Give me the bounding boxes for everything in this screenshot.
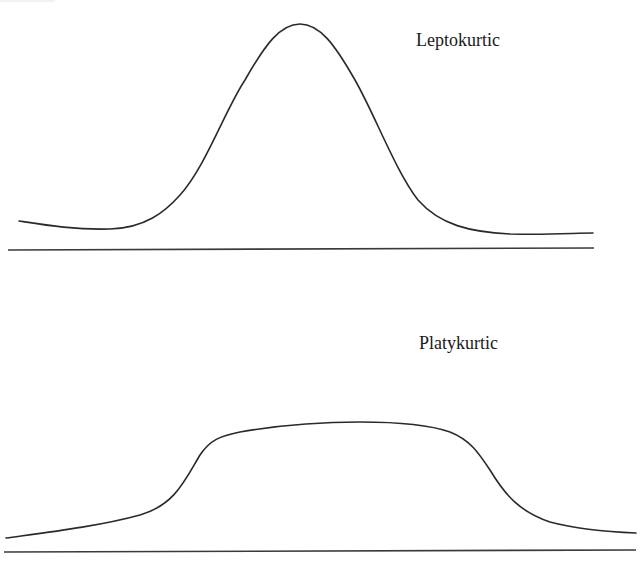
leptokurtic-label: Leptokurtic bbox=[416, 31, 500, 49]
platykurtic-curve bbox=[6, 422, 636, 538]
leptokurtic-curve bbox=[19, 24, 593, 234]
platykurtic-baseline bbox=[4, 550, 636, 552]
leptokurtic-baseline bbox=[8, 248, 594, 250]
leptokurtic-panel bbox=[8, 24, 594, 250]
platykurtic-panel bbox=[4, 422, 636, 552]
kurtosis-diagram bbox=[0, 0, 640, 568]
platykurtic-label: Platykurtic bbox=[419, 334, 498, 352]
